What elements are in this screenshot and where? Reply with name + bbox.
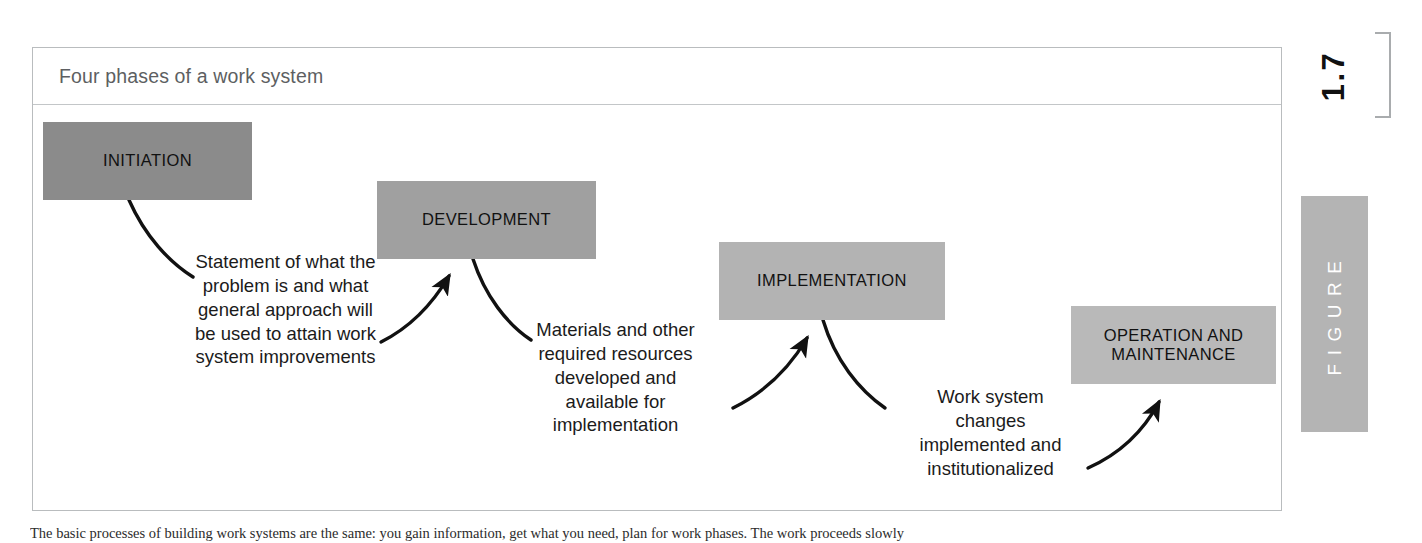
- figure-tab-label: FIGURE: [1324, 253, 1346, 376]
- figure-bracket-icon: [1375, 32, 1391, 118]
- figure-tab: FIGURE: [1301, 196, 1368, 432]
- phase-box-development: DEVELOPMENT: [377, 181, 596, 259]
- phase-label-implementation: IMPLEMENTATION: [757, 271, 907, 290]
- arrow-into-operation: [1088, 402, 1159, 468]
- figure-page: Four phases of a work system INI: [0, 0, 1422, 543]
- page-title: Four phases of a work system: [59, 65, 323, 88]
- annotation-implementation-to-operation: Work system changes implemented and inst…: [888, 385, 1093, 480]
- phase-label-initiation: INITIATION: [103, 151, 192, 170]
- phase-label-operation-and-maintenance: OPERATION AND MAINTENANCE: [1071, 326, 1276, 365]
- body-caption-text: The basic processes of building work sys…: [30, 524, 1400, 543]
- figure-title-band: Four phases of a work system: [33, 48, 1281, 105]
- phase-box-operation-and-maintenance: OPERATION AND MAINTENANCE: [1071, 306, 1276, 384]
- phase-box-implementation: IMPLEMENTATION: [719, 242, 945, 320]
- figure-frame: Four phases of a work system INI: [32, 47, 1282, 511]
- annotation-development-to-implementation: Materials and other required resources d…: [503, 318, 728, 437]
- arrow-implementation-out: [823, 320, 885, 408]
- figure-number: 1.7: [1317, 28, 1351, 124]
- phase-box-initiation: INITIATION: [43, 122, 252, 200]
- annotation-initiation-to-development: Statement of what the problem is and wha…: [168, 250, 403, 369]
- phase-label-development: DEVELOPMENT: [422, 210, 551, 229]
- figure-number-text: 1.7: [1316, 51, 1352, 102]
- arrow-into-implementation: [733, 338, 807, 408]
